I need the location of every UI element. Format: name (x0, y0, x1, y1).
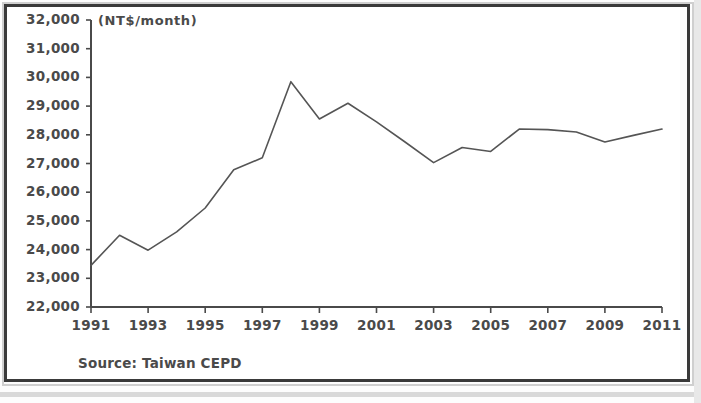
y-axis-tick-label: 24,000 (8, 241, 80, 257)
series-line-average-monthly-earnings (91, 82, 662, 266)
x-axis-tick-label: 2005 (461, 317, 521, 333)
x-axis-tick-label: 1991 (61, 317, 121, 333)
y-axis-tick-label: 28,000 (8, 126, 80, 142)
y-axis-tick-label: 31,000 (8, 40, 80, 56)
x-axis-tick-label: 1999 (289, 317, 349, 333)
y-axis-tick-label: 29,000 (8, 97, 80, 113)
x-axis-tick-label: 1997 (232, 317, 292, 333)
y-axis-unit-label: (NT$/month) (98, 13, 197, 28)
x-axis-tick-label: 2001 (347, 317, 407, 333)
y-axis-tick-label: 25,000 (8, 212, 80, 228)
figure-container: 32,00031,00030,00029,00028,00027,00026,0… (0, 0, 701, 403)
chart-axes (91, 20, 662, 307)
y-axis-tick-label: 22,000 (8, 298, 80, 314)
y-axis-tick-label: 23,000 (8, 269, 80, 285)
y-axis-tick-label: 26,000 (8, 183, 80, 199)
y-axis-tick-label: 32,000 (8, 11, 80, 27)
source-note: Source: Taiwan CEPD (78, 355, 242, 371)
x-axis-tick-label: 1995 (175, 317, 235, 333)
line-chart-plot (0, 0, 701, 403)
y-axis-tick-label: 30,000 (8, 68, 80, 84)
x-axis-tick-label: 1993 (118, 317, 178, 333)
x-axis-tick-label: 2003 (404, 317, 464, 333)
x-axis-tick-label: 2007 (518, 317, 578, 333)
data-series-layer (91, 82, 662, 266)
x-axis-tick-label: 2011 (632, 317, 692, 333)
y-axis-tick-label: 27,000 (8, 155, 80, 171)
x-axis-tick-label: 2009 (575, 317, 635, 333)
